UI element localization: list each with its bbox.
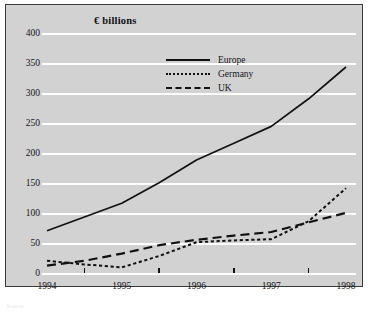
- y-tick-label: 300: [6, 89, 40, 99]
- x-minor-ticks: [84, 268, 308, 273]
- legend-item-europe[interactable]: Europe: [166, 53, 286, 67]
- figure: 050100150200250300350400 199419951996199…: [0, 0, 368, 314]
- series-line-uk: [47, 213, 346, 266]
- y-tick-label: 150: [6, 179, 40, 189]
- y-tick-label: 250: [6, 119, 40, 129]
- y-tick-label: 350: [6, 59, 40, 69]
- legend-swatch-dotted: [166, 73, 210, 75]
- legend-label: UK: [218, 81, 232, 95]
- x-tick-label: 1997: [248, 282, 294, 292]
- legend-item-uk[interactable]: UK: [166, 81, 286, 95]
- legend-swatch-dashed: [166, 87, 210, 89]
- legend-label: Germany: [218, 67, 253, 81]
- y-tick-label: 100: [6, 209, 40, 219]
- y-tick-label: 400: [6, 29, 40, 39]
- x-tick-label: 1994: [24, 282, 70, 292]
- legend-label: Europe: [218, 53, 245, 67]
- y-tick-label: 50: [6, 239, 40, 249]
- y-tick-label: 200: [6, 149, 40, 159]
- legend-swatch-solid: [166, 59, 210, 61]
- legend-item-germany[interactable]: Germany: [166, 67, 286, 81]
- legend: EuropeGermanyUK: [166, 53, 286, 95]
- x-tick-label: 1995: [99, 282, 145, 292]
- chart-title: € billions: [94, 15, 137, 26]
- y-tick-label: 0: [6, 269, 40, 279]
- plot-svg: [6, 5, 362, 286]
- series-line-germany: [47, 188, 346, 267]
- plot-area: [6, 5, 362, 286]
- source-caption: Source:: [6, 303, 226, 312]
- series-lines: [47, 67, 346, 267]
- x-tick-label: 1996: [174, 282, 220, 292]
- x-tick-label: 1998: [323, 282, 368, 292]
- chart-panel: 050100150200250300350400 199419951996199…: [5, 4, 363, 287]
